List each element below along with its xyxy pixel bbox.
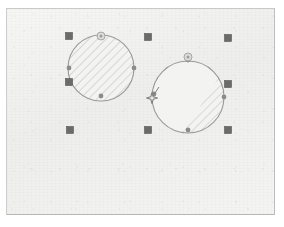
- handle-bottom-right[interactable]: [225, 127, 232, 134]
- screenshot-root: [0, 0, 284, 227]
- handle-top-right[interactable]: [225, 35, 232, 42]
- ellipse-shape-right[interactable]: [152, 61, 224, 133]
- handle-middle-left[interactable]: [66, 79, 73, 86]
- handle-top-center[interactable]: [145, 34, 152, 41]
- ellipse-shape-left[interactable]: [68, 35, 134, 101]
- rotation-handle-right-circle-dot: [187, 56, 190, 59]
- vertex-right-circle-east[interactable]: [222, 95, 227, 100]
- handle-middle-right[interactable]: [225, 81, 232, 88]
- vertex-left-circle-south[interactable]: [99, 94, 104, 99]
- vector-artwork-layer: [0, 0, 284, 227]
- vertex-left-circle-east[interactable]: [132, 66, 137, 71]
- rotation-handle-left-circle-dot: [100, 35, 103, 38]
- handle-bottom-center[interactable]: [145, 127, 152, 134]
- handle-top-left[interactable]: [66, 33, 73, 40]
- vertex-left-circle-west[interactable]: [67, 66, 72, 71]
- vertex-right-circle-south[interactable]: [186, 128, 191, 133]
- handle-bottom-left[interactable]: [67, 127, 74, 134]
